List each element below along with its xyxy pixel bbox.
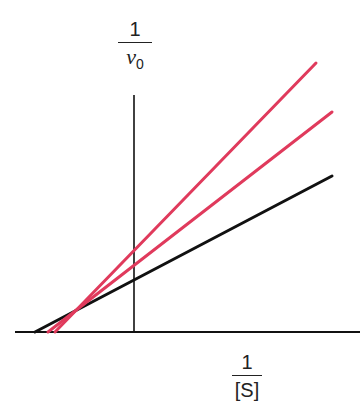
x-axis-label: 1 [S]	[232, 351, 262, 401]
y-axis-label: 1 ν0	[118, 18, 152, 75]
fraction-bar	[232, 375, 262, 376]
plot-line-inhibitor-high	[55, 63, 316, 332]
x-label-numerator: 1	[232, 351, 262, 373]
x-label-denominator: [S]	[232, 379, 262, 401]
y-label-numerator: 1	[118, 18, 152, 40]
fraction-bar	[118, 42, 152, 43]
plot-canvas	[0, 0, 360, 410]
y-label-denominator: ν0	[118, 46, 152, 75]
plot-line-inhibitor-low	[48, 112, 332, 332]
